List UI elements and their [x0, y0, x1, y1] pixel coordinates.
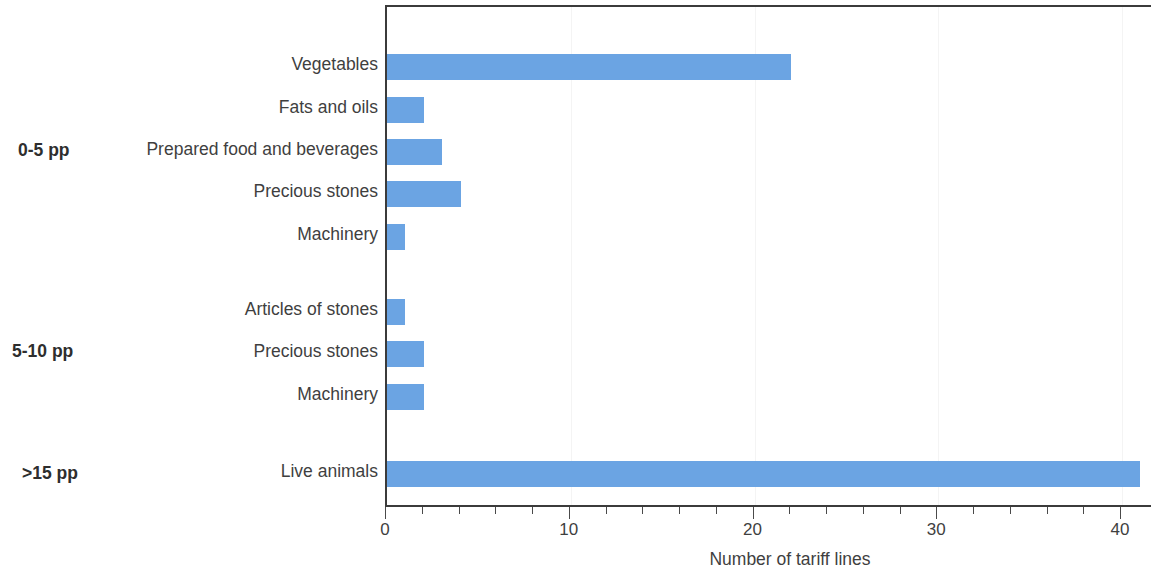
x-tick-major [1120, 507, 1121, 519]
x-tick-label: 0 [380, 521, 389, 538]
bar [387, 54, 791, 80]
category-label: Precious stones [0, 183, 378, 201]
gridline [938, 7, 939, 505]
x-tick-minor [863, 507, 864, 514]
x-tick-major [936, 507, 937, 519]
bar [387, 461, 1140, 487]
x-axis-line [385, 505, 1151, 507]
category-label: Articles of stones [0, 301, 378, 319]
x-tick-minor [789, 507, 790, 514]
bar [387, 384, 424, 410]
x-tick-minor [495, 507, 496, 514]
x-tick-label: 40 [1111, 521, 1130, 538]
x-tick-minor [1083, 507, 1084, 514]
x-tick-minor [679, 507, 680, 514]
x-tick-major [385, 507, 386, 519]
x-tick-minor [606, 507, 607, 514]
category-label: Machinery [0, 226, 378, 244]
plot-area [385, 5, 1151, 505]
x-tick-major [753, 507, 754, 519]
x-tick-label: 30 [927, 521, 946, 538]
gridline [755, 7, 756, 505]
category-axis-labels: VegetablesFats and oilsPrepared food and… [0, 0, 378, 510]
x-tick-minor [532, 507, 533, 514]
x-tick-minor [1047, 507, 1048, 514]
group-label: >15 pp [22, 465, 78, 483]
x-tick-label: 20 [743, 521, 762, 538]
bar [387, 224, 405, 250]
gridline [571, 7, 572, 505]
category-label: Vegetables [0, 56, 378, 74]
x-axis-title: Number of tariff lines [709, 551, 870, 569]
bar [387, 97, 424, 123]
x-tick-minor [826, 507, 827, 514]
group-label: 5-10 pp [12, 343, 73, 361]
x-tick-minor [459, 507, 460, 514]
x-tick-minor [422, 507, 423, 514]
gridline [1122, 7, 1123, 505]
bar [387, 139, 442, 165]
category-label: Fats and oils [0, 99, 378, 117]
tariff-lines-bar-chart: VegetablesFats and oilsPrepared food and… [0, 0, 1151, 580]
x-tick-minor [642, 507, 643, 514]
x-tick-minor [716, 507, 717, 514]
category-label: Machinery [0, 386, 378, 404]
x-tick-label: 10 [559, 521, 578, 538]
x-tick-minor [1010, 507, 1011, 514]
group-label: 0-5 pp [18, 142, 70, 160]
bar [387, 341, 424, 367]
x-tick-minor [900, 507, 901, 514]
bar [387, 181, 461, 207]
x-tick-minor [973, 507, 974, 514]
bar [387, 299, 405, 325]
x-tick-major [569, 507, 570, 519]
